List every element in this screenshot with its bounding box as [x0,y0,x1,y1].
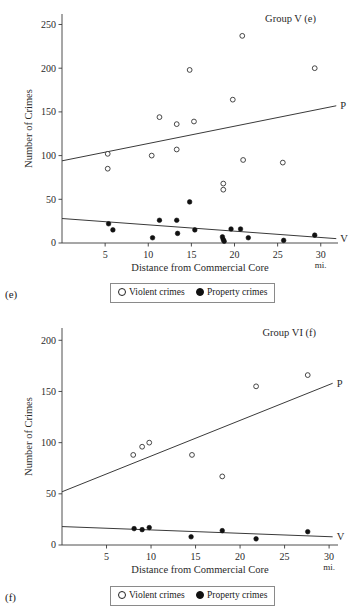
data-point-violent [140,444,145,449]
data-point-property [222,239,227,244]
data-point-violent [192,119,197,124]
data-point-property [187,200,192,205]
y-axis-tick-label: 150 [41,106,56,117]
data-point-property [140,527,145,532]
data-point-violent [312,66,317,71]
x-axis-title: Distance from Commercial Core [131,262,269,273]
panel-letter-e: (e) [5,288,17,300]
data-point-violent [105,166,110,171]
x-axis-unit-label: mi. [315,260,327,270]
chart-title: Group VI (f) [263,327,317,339]
fit-line-label-v: V [337,531,345,542]
scatter-chart-group-vi: 05010015020051015202530mi.Distance from … [0,306,359,586]
fit-line-v [62,527,333,537]
x-axis-tick-label: 5 [103,249,108,260]
plot-area-group-vi: 05010015020051015202530mi.Distance from … [0,306,359,566]
figure-panel-e: 05010015020025051015202530mi.Distance fr… [0,0,359,306]
y-axis-title: Number of Crimes [23,89,34,168]
data-point-violent [131,453,136,458]
y-axis-title: Number of Crimes [23,397,34,476]
data-point-violent [240,33,245,38]
legend-group-vi: Violent crimes Property crimes [110,586,275,606]
data-point-violent [230,97,235,102]
scatter-chart-group-v: 05010015020025051015202530mi.Distance fr… [0,0,359,280]
legend-entry-property: Property crimes [196,286,267,299]
x-axis-tick-label: 5 [104,551,109,562]
data-point-violent [105,151,110,156]
data-point-violent [254,384,259,389]
data-point-property [175,231,180,236]
legend-entry-property: Property crimes [196,589,267,602]
data-point-property [246,235,251,240]
data-point-property [147,525,152,530]
data-point-property [193,228,198,233]
y-axis-tick-label: 250 [41,19,56,30]
x-axis-tick-label: 25 [280,551,290,562]
legend-label-violent: Violent crimes [129,590,185,600]
fit-line-label-p: P [340,100,346,111]
x-axis-tick-label: 15 [186,249,196,260]
data-point-property [106,221,111,226]
x-axis-tick-label: 10 [146,551,156,562]
x-axis-title: Distance from Commercial Core [131,564,269,575]
legend-label-violent: Violent crimes [129,287,185,297]
filled-circle-marker-icon [196,288,204,296]
x-axis-tick-label: 25 [273,249,283,260]
legend-label-property: Property crimes [207,287,267,297]
y-axis-tick-label: 200 [41,63,56,74]
x-axis-tick-label: 15 [191,551,201,562]
y-axis-tick-label: 150 [41,386,56,397]
data-point-property [157,218,162,223]
chart-title: Group V (e) [265,13,316,25]
data-point-violent [190,453,195,458]
data-point-violent [305,373,310,378]
panel-letter-f: (f) [5,591,16,603]
y-axis-tick-label: 100 [41,150,56,161]
data-point-violent [280,160,285,165]
data-point-violent [241,158,246,163]
y-axis-tick-label: 50 [46,194,56,205]
plot-area-group-v: 05010015020025051015202530mi.Distance fr… [0,0,359,260]
x-axis-tick-label: 30 [324,551,334,562]
legend-entry-violent: Violent crimes [118,286,185,299]
y-axis-tick-label: 50 [46,488,56,499]
data-point-violent [149,153,154,158]
fit-line-v [62,219,336,239]
data-point-property [305,529,310,534]
fit-line-label-v: V [340,233,348,244]
x-axis-tick-label: 10 [143,249,153,260]
data-point-violent [147,440,152,445]
data-point-property [174,218,179,223]
fit-line-p [62,106,336,161]
data-point-property [238,227,243,232]
y-axis-tick-label: 0 [51,237,56,248]
data-point-property [150,235,155,240]
fit-line-p [62,383,333,492]
data-point-property [254,537,259,542]
filled-circle-marker-icon [196,591,204,599]
y-axis-tick-label: 0 [51,539,56,550]
data-point-violent [187,68,192,73]
x-axis-tick-label: 30 [316,249,326,260]
open-circle-marker-icon [118,288,126,296]
fit-line-label-p: P [337,378,343,389]
data-point-violent [220,474,225,479]
y-axis-tick-label: 200 [41,335,56,346]
data-point-property [132,526,137,531]
y-axis-tick-label: 100 [41,437,56,448]
data-point-violent [221,181,226,186]
data-point-violent [221,187,226,192]
data-point-violent [174,147,179,152]
data-point-property [111,228,116,233]
open-circle-marker-icon [118,591,126,599]
data-point-property [312,233,317,238]
x-axis-unit-label: mi. [323,562,335,572]
data-point-property [189,535,194,540]
data-point-violent [157,115,162,120]
data-point-property [229,227,234,232]
legend-entry-violent: Violent crimes [118,589,185,602]
legend-group-v: Violent crimes Property crimes [110,283,275,303]
figure-panel-f: 05010015020051015202530mi.Distance from … [0,306,359,612]
legend-label-property: Property crimes [207,590,267,600]
x-axis-tick-label: 20 [230,249,240,260]
